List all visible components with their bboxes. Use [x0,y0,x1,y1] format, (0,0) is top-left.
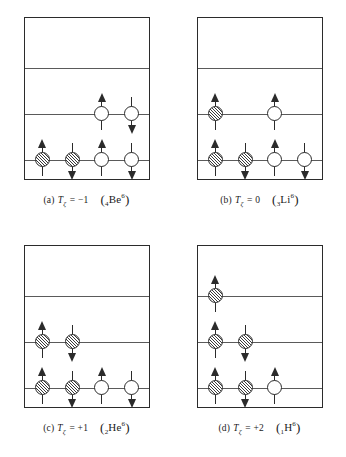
neutron-circle-icon [65,380,80,395]
proton-circle-icon [267,152,282,167]
panel-label: (d) [218,423,230,433]
isospin-symbol: Tζ [58,195,67,205]
panel-caption: (c)Tζ = +1(2He6) [0,420,173,436]
energy-level-line [25,296,149,297]
spin-arrow-down-icon [241,353,249,362]
proton-up-spin [267,152,282,167]
neutron-down-spin [238,152,253,167]
neutron-circle-icon [208,380,223,395]
nuclide-notation: (3Li6) [272,193,299,205]
neutron-circle-icon [238,152,253,167]
neutron-up-spin [208,288,223,303]
panel-caption: (d)Tζ = +2(1H6) [173,420,346,436]
spin-arrow-down-icon [68,353,76,362]
spin-arrow-up-icon [98,93,106,102]
nuclide-close-paren: ) [125,192,130,207]
proton-circle-icon [124,152,139,167]
neutron-circle-icon [208,106,223,121]
neutron-down-spin [65,380,80,395]
proton-down-spin [297,152,312,167]
neutron-up-spin [208,152,223,167]
spin-arrow-down-icon [301,171,309,180]
proton-up-spin [94,380,109,395]
proton-down-spin [124,106,139,121]
proton-up-spin [94,106,109,121]
equals-sign: = [245,423,251,433]
isospin-subscript: ζ [63,200,66,208]
spin-arrow-up-icon [38,321,46,330]
panel-c: (c)Tζ = +1(2He6) [0,228,173,456]
proton-up-spin [94,152,109,167]
element-symbol: Be [109,193,122,205]
element-symbol: He [108,421,121,433]
spin-arrow-up-icon [38,139,46,148]
level-diagram-box [197,17,323,180]
spin-arrow-up-icon [211,93,219,102]
spin-arrow-up-icon [271,367,279,376]
proton-up-spin [267,106,282,121]
nuclide-notation: (2He6) [100,421,130,433]
neutron-up-spin [35,152,50,167]
proton-circle-icon [94,380,109,395]
proton-down-spin [124,380,139,395]
proton-down-spin [124,152,139,167]
panel-label: (a) [43,195,54,205]
proton-circle-icon [94,106,109,121]
isospin-symbol: Tζ [57,423,66,433]
level-diagram-box [24,245,150,408]
neutron-down-spin [65,334,80,349]
neutron-circle-icon [65,334,80,349]
neutron-up-spin [208,334,223,349]
spin-arrow-down-icon [128,125,136,134]
neutron-circle-icon [65,152,80,167]
spin-arrow-down-icon [241,171,249,180]
neutron-circle-icon [35,334,50,349]
neutron-circle-icon [35,380,50,395]
panel-caption: (b)Tζ = 0(3Li6) [173,192,346,208]
spin-arrow-up-icon [211,139,219,148]
spin-arrow-up-icon [271,139,279,148]
isospin-value: 0 [255,195,260,205]
equals-sign: = [247,195,253,205]
panel-b: (b)Tζ = 0(3Li6) [173,0,346,228]
isospin-symbol: Tζ [233,423,242,433]
isospin-subscript: ζ [63,428,66,436]
energy-level-figure: (a)Tζ = −1(4Be6)(b)Tζ = 0(3Li6)(c)Tζ = +… [0,0,346,457]
isospin-value: −1 [78,195,89,205]
isospin-value: +1 [78,423,89,433]
spin-arrow-down-icon [68,171,76,180]
neutron-down-spin [65,152,80,167]
spin-arrow-down-icon [128,399,136,408]
neutron-up-spin [35,380,50,395]
equals-sign: = [69,423,75,433]
isospin-symbol: Tζ [235,195,244,205]
isospin-subscript: ζ [239,428,242,436]
neutron-circle-icon [238,380,253,395]
isospin-value: +2 [253,423,264,433]
level-diagram-box [197,245,323,408]
panel-caption: (a)Tζ = −1(4Be6) [0,192,173,208]
level-diagram-box [24,17,150,180]
energy-level-line [25,68,149,69]
panel-label: (b) [220,195,232,205]
neutron-circle-icon [208,288,223,303]
neutron-up-spin [208,380,223,395]
panel-d: (d)Tζ = +2(1H6) [173,228,346,456]
neutron-down-spin [238,380,253,395]
neutron-circle-icon [35,152,50,167]
spin-arrow-down-icon [241,399,249,408]
panel-label: (c) [43,423,54,433]
proton-circle-icon [267,380,282,395]
element-symbol: Li [280,193,290,205]
spin-arrow-up-icon [98,367,106,376]
spin-arrow-up-icon [271,93,279,102]
nuclide-notation: (4Be6) [100,193,129,205]
neutron-circle-icon [208,334,223,349]
neutron-circle-icon [238,334,253,349]
nuclide-notation: (1H6) [276,421,301,433]
proton-circle-icon [124,380,139,395]
nuclide-close-paren: ) [294,192,299,207]
nuclide-close-paren: ) [296,420,301,435]
isospin-subscript: ζ [240,200,243,208]
proton-circle-icon [267,106,282,121]
